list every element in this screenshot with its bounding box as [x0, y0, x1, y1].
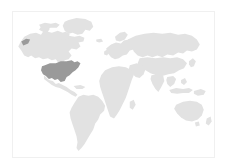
world-map-widget: [0, 0, 227, 168]
world-map-svg[interactable]: [13, 12, 214, 157]
map-panel: [12, 11, 215, 158]
